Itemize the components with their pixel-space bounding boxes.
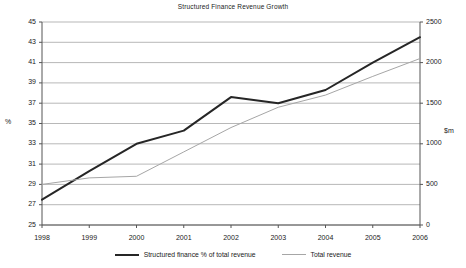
y-axis-left-tick-label: 27 — [12, 200, 36, 207]
y-axis-left-tick-label: 25 — [12, 221, 36, 228]
y-axis-right-tick-label: 2000 — [426, 58, 456, 65]
legend-line-icon-primary — [115, 254, 139, 256]
x-axis-tick-label: 2005 — [355, 234, 391, 241]
y-axis-left-tick-label: 45 — [12, 18, 36, 25]
legend-item-total-revenue: Total revenue — [282, 251, 352, 258]
y-axis-left-tick-label: 37 — [12, 99, 36, 106]
y-axis-left-tick-label: 33 — [12, 139, 36, 146]
y-axis-left-tick-label: 41 — [12, 58, 36, 65]
y-axis-right-tick-label: 1500 — [426, 99, 456, 106]
data-series-lines — [42, 37, 420, 199]
x-axis-tick-label: 1998 — [24, 234, 60, 241]
y-axis-left-tick-label: 31 — [12, 160, 36, 167]
legend-item-structured-finance: Structured finance % of total revenue — [115, 251, 256, 258]
x-axis-tick-label: 2002 — [213, 234, 249, 241]
y-axis-left-tick-label: 39 — [12, 78, 36, 85]
gridlines — [42, 22, 420, 225]
x-axis-tick-label: 2004 — [308, 234, 344, 241]
x-axis-tick-label: 1999 — [71, 234, 107, 241]
y-axis-right-tick-label: 0 — [426, 221, 456, 228]
y-axis-right-tick-label: 2500 — [426, 18, 456, 25]
legend-label-secondary: Total revenue — [311, 251, 352, 258]
y-axis-left-tick-label: 43 — [12, 38, 36, 45]
x-axis-tick-label: 2001 — [166, 234, 202, 241]
x-axis-tick-label: 2003 — [260, 234, 296, 241]
x-axis-tick-label: 2000 — [119, 234, 155, 241]
chart-legend: Structured finance % of total revenue To… — [0, 251, 466, 258]
legend-line-icon-secondary — [282, 254, 306, 255]
series-line-structured-finance — [42, 37, 420, 199]
plot-area — [0, 0, 466, 268]
x-axis-tick-label: 2006 — [402, 234, 438, 241]
y-axis-right-tick-label: 1000 — [426, 139, 456, 146]
y-axis-left-tick-label: 29 — [12, 180, 36, 187]
y-axis-left-tick-label: 35 — [12, 119, 36, 126]
y-axis-right-tick-label: 500 — [426, 180, 456, 187]
legend-label-primary: Structured finance % of total revenue — [144, 251, 256, 258]
chart-container: Structured Finance Revenue Growth % $m 4… — [0, 0, 466, 268]
